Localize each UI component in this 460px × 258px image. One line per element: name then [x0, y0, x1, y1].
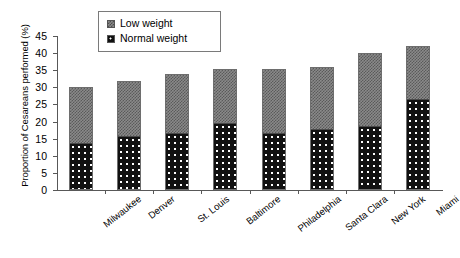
- bar-segment-normal-weight: [263, 133, 285, 189]
- x-axis-label: Milwaukee: [101, 193, 143, 229]
- bar-segment-normal-weight: [311, 129, 333, 189]
- y-tick: 0: [53, 190, 57, 191]
- stacked-bar: [213, 69, 237, 190]
- bar-slot: [69, 87, 93, 190]
- plot-area: 051015202530354045: [57, 36, 442, 190]
- y-axis-title: Proportion of Cesareans performed (%): [19, 16, 30, 196]
- y-tick-label: 30: [35, 81, 47, 93]
- chart-legend: Low weight Normal weight: [98, 11, 221, 52]
- bar-slot: [117, 81, 141, 191]
- legend-label-normal-weight: Normal weight: [120, 31, 187, 46]
- y-tick-label: 40: [35, 47, 47, 59]
- bar-segment-low-weight: [311, 68, 333, 130]
- stacked-bar: [69, 87, 93, 190]
- stacked-bar: [310, 67, 334, 190]
- bar-segment-low-weight: [166, 75, 188, 133]
- bar-slot: [213, 69, 237, 190]
- y-tick-label: 5: [41, 167, 47, 179]
- x-axis-label: Philadelphia: [295, 193, 343, 234]
- x-axis-labels: MilwaukeeDenverSt. LouisBaltimorePhilade…: [57, 192, 443, 256]
- stacked-bar: [358, 53, 382, 190]
- bar-segment-normal-weight: [359, 126, 381, 189]
- x-axis-label: Miami: [434, 193, 460, 217]
- bar-segment-normal-weight: [70, 143, 92, 189]
- stacked-bar: [165, 74, 189, 190]
- legend-swatch-low-weight-icon: [107, 20, 115, 28]
- stacked-bar: [117, 81, 141, 191]
- stacked-bar: [406, 46, 430, 190]
- y-tick-label: 15: [35, 133, 47, 145]
- bar-segment-low-weight: [407, 47, 429, 98]
- x-axis-label: Denver: [146, 193, 177, 221]
- bar-segment-low-weight: [70, 88, 92, 143]
- bar-segment-low-weight: [118, 82, 140, 137]
- y-tick-label: 35: [35, 64, 47, 76]
- legend-label-low-weight: Low weight: [120, 16, 173, 31]
- y-tick-label: 0: [41, 184, 47, 196]
- bar-segment-normal-weight: [118, 136, 140, 189]
- bar-slot: [310, 67, 334, 190]
- bar-slot: [165, 74, 189, 190]
- y-tick-label: 45: [35, 30, 47, 42]
- x-axis-label: Santa Clara: [343, 193, 389, 233]
- y-tick-label: 25: [35, 98, 47, 110]
- bar-segment-normal-weight: [214, 123, 236, 189]
- legend-item-normal-weight: Normal weight: [107, 31, 214, 46]
- bar-segment-low-weight: [263, 70, 285, 133]
- bar-segment-normal-weight: [166, 133, 188, 189]
- bar-segment-low-weight: [359, 54, 381, 126]
- bar-slot: [406, 46, 430, 190]
- legend-swatch-normal-weight-icon: [107, 35, 115, 43]
- bar-segment-normal-weight: [407, 99, 429, 189]
- x-axis-label: Baltimore: [244, 193, 282, 226]
- bar-slot: [358, 53, 382, 190]
- x-axis-label: New York: [389, 193, 427, 226]
- x-axis-label: St. Louis: [196, 193, 232, 224]
- legend-item-low-weight: Low weight: [107, 16, 214, 31]
- y-tick-label: 10: [35, 150, 47, 162]
- bar-segment-low-weight: [214, 70, 236, 123]
- stacked-bar: [262, 69, 286, 190]
- bar-slot: [262, 69, 286, 190]
- y-tick-label: 20: [35, 116, 47, 128]
- bar-group: [57, 36, 442, 190]
